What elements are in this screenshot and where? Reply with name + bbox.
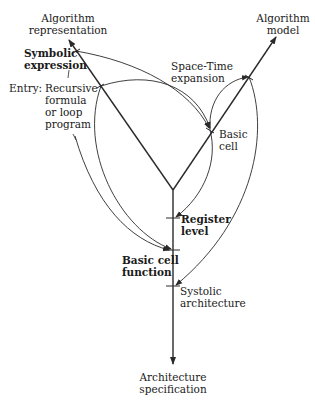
label-line: program: [45, 118, 98, 130]
label-line: Systolic: [180, 285, 246, 297]
label-architecture-specification: Architecture specification: [128, 371, 218, 395]
label-register-level: Register level: [181, 213, 231, 237]
label-symbolic-expression: Symbolic expression: [24, 47, 87, 71]
label-line: Architecture: [128, 371, 218, 383]
label-systolic-architecture: Systolic architecture: [180, 285, 246, 309]
label-line: Basic cell: [122, 254, 179, 266]
label-line: Basic: [219, 128, 248, 140]
label-algorithm-representation: Algorithm representation: [18, 12, 118, 36]
label-line: specification: [128, 383, 218, 395]
label-algorithm-model: Algorithm model: [250, 12, 315, 36]
label-line: formula: [45, 94, 98, 106]
label-line: representation: [18, 24, 118, 36]
label-line: expansion: [171, 72, 233, 84]
label-basic-cell: Basic cell: [219, 128, 248, 152]
label-line: architecture: [180, 297, 246, 309]
label-line: Recursive: [45, 82, 98, 94]
label-line: level: [181, 225, 231, 237]
symbolic-entry-connector: [68, 70, 69, 78]
edge-basic-cell-to-register: [176, 130, 212, 217]
label-entry: Entry:: [9, 82, 42, 94]
edge-basic-cell-to-model-point: [210, 77, 248, 130]
label-line: model: [250, 24, 315, 36]
label-line: Register: [181, 213, 231, 225]
label-line: Symbolic: [24, 47, 87, 59]
label-line: Space-Time: [171, 60, 233, 72]
edge-entry-to-basic-cell-function: [95, 86, 171, 249]
edge-model-point-to-systolic: [176, 77, 258, 285]
label-line: expression: [24, 59, 87, 71]
label-line: Algorithm: [18, 12, 118, 24]
label-line: or loop: [45, 106, 98, 118]
label-basic-cell-function: Basic cell function: [122, 254, 179, 278]
label-space-time-expansion: Space-Time expansion: [171, 60, 233, 84]
edge-program-to-basic-cell-function: [75, 136, 169, 250]
label-recursive-formula: Recursive formula or loop program: [45, 82, 98, 130]
edge-entry-to-basic-cell: [101, 80, 210, 128]
label-line: function: [122, 266, 179, 278]
entry-prefix: Entry:: [9, 82, 42, 94]
label-line: cell: [219, 140, 248, 152]
label-line: Algorithm: [250, 12, 315, 24]
